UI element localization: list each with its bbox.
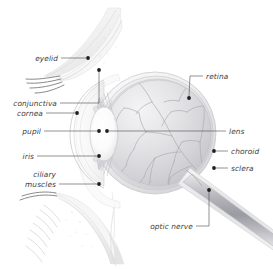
label-cornea: cornea	[17, 109, 43, 118]
label-ciliary-muscles-line1: ciliary	[33, 170, 56, 179]
marker-retina	[187, 96, 191, 100]
marker-choroid	[212, 149, 216, 153]
diagram-canvas: eyelid conjunctiva cornea pupil iris cil…	[0, 0, 273, 269]
label-eyelid: eyelid	[35, 54, 58, 63]
label-ciliary-muscles-line2: muscles	[25, 180, 56, 189]
marker-optic-nerve	[207, 188, 211, 192]
label-lens: lens	[229, 127, 245, 136]
label-pupil: pupil	[21, 127, 42, 136]
marker-iris	[97, 154, 101, 158]
lower-lash-group	[20, 192, 57, 200]
marker-lens	[105, 129, 109, 133]
label-iris: iris	[23, 152, 34, 161]
label-retina: retina	[206, 72, 229, 81]
marker-sclera	[212, 166, 216, 170]
marker-cornea	[75, 111, 79, 115]
label-choroid: choroid	[231, 147, 259, 156]
label-optic-nerve: optic nerve	[150, 222, 193, 231]
label-conjunctiva: conjunctiva	[13, 99, 57, 108]
marker-pupil	[97, 129, 101, 133]
optic-nerve-group	[178, 168, 273, 252]
marker-conjunctiva	[97, 68, 101, 72]
marker-eyelid	[86, 56, 90, 60]
label-sclera: sclera	[231, 164, 254, 173]
lower-lash-fine-group	[26, 205, 60, 262]
eye-anatomy-diagram: eyelid conjunctiva cornea pupil iris cil…	[0, 0, 273, 269]
lower-lid-rim	[112, 192, 114, 238]
marker-ciliary-muscles	[97, 182, 101, 186]
